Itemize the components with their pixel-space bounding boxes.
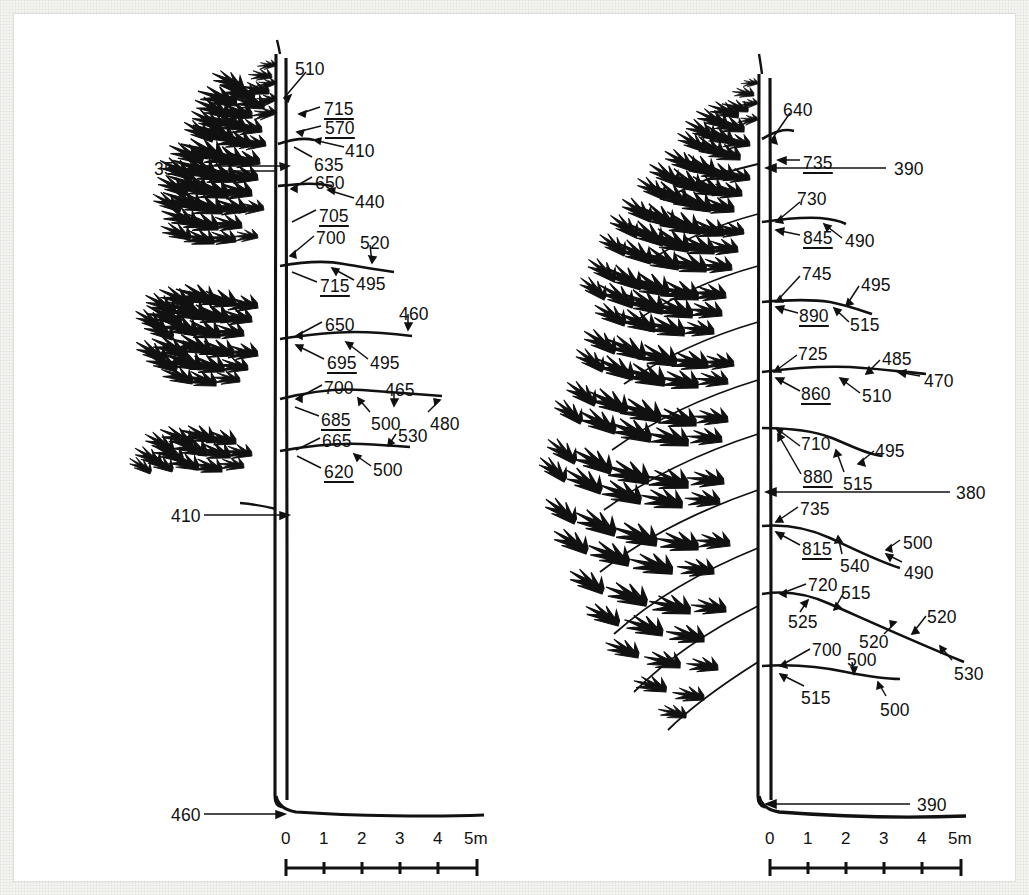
label-left-650a: 650: [315, 175, 345, 193]
label-right-845: 845: [803, 230, 833, 248]
label-right-540: 540: [840, 558, 870, 576]
right-scale-tick-1: 1: [803, 829, 812, 849]
left-scale-tick-2: 2: [357, 829, 366, 849]
label-right-720: 720: [808, 577, 838, 595]
label-left-715b: 715: [320, 278, 350, 296]
label-right-640: 640: [783, 102, 813, 120]
label-left-410b: 410: [171, 508, 201, 526]
label-right-520b: 520: [859, 634, 889, 652]
label-left-700b: 700: [324, 380, 354, 398]
right-scale-tick-4: 4: [917, 829, 926, 849]
label-left-460a: 460: [399, 306, 429, 324]
label-right-490a: 490: [845, 233, 875, 251]
label-right-380: 380: [956, 485, 986, 503]
left-scale-tick-1: 1: [319, 829, 328, 849]
label-right-880: 880: [803, 469, 833, 487]
left-scale-tick-3: 3: [395, 829, 404, 849]
right-scale-tick-2: 2: [841, 829, 850, 849]
label-left-530: 530: [398, 428, 428, 446]
figure-canvas: 510 715 570 410 635 350 650 440 705 700 …: [14, 14, 1015, 881]
label-right-390b: 390: [917, 797, 947, 815]
right-scale-end-label: 5m: [948, 829, 972, 849]
label-right-730: 730: [797, 191, 827, 209]
left-scale-tick-4: 4: [433, 829, 442, 849]
label-left-700a: 700: [316, 230, 346, 248]
label-right-510: 510: [862, 388, 892, 406]
tree-profiles-svg: [14, 14, 1015, 881]
label-right-745: 745: [802, 266, 832, 284]
label-left-495a: 495: [356, 276, 386, 294]
label-left-460b: 460: [171, 807, 201, 825]
label-left-410a: 410: [345, 143, 375, 161]
label-right-515d: 515: [801, 690, 831, 708]
label-left-500b: 500: [373, 462, 403, 480]
figure-vector-art: [14, 14, 1015, 881]
label-left-480: 480: [430, 416, 460, 434]
label-left-440: 440: [355, 194, 385, 212]
right-scale-tick-3: 3: [879, 829, 888, 849]
label-left-715a: 715: [324, 101, 354, 119]
label-left-510: 510: [295, 61, 325, 79]
label-right-860: 860: [801, 386, 831, 404]
label-left-465: 465: [385, 382, 415, 400]
right-scale-bar: [770, 859, 961, 876]
left-scale-end-label: 5m: [464, 829, 488, 849]
label-left-665: 665: [322, 433, 352, 451]
label-left-500a: 500: [371, 416, 401, 434]
label-right-700: 700: [812, 642, 842, 660]
label-right-515a: 515: [850, 317, 880, 335]
label-left-650b: 650: [325, 317, 355, 335]
label-left-570: 570: [325, 120, 355, 138]
label-right-470: 470: [924, 373, 954, 391]
label-right-490b: 490: [904, 565, 934, 583]
label-right-515b: 515: [843, 476, 873, 494]
label-right-515c: 515: [841, 585, 871, 603]
label-left-495b: 495: [370, 355, 400, 373]
label-left-620: 620: [324, 464, 354, 482]
left-scale-tick-0: 0: [281, 829, 290, 849]
label-left-635: 635: [314, 157, 344, 175]
label-left-520: 520: [360, 235, 390, 253]
label-right-500a: 500: [903, 535, 933, 553]
label-right-725: 725: [798, 346, 828, 364]
label-right-500c: 500: [880, 702, 910, 720]
label-right-520a: 520: [927, 609, 957, 627]
label-right-485: 485: [882, 351, 912, 369]
label-right-735a: 735: [803, 155, 833, 173]
right-scale-tick-0: 0: [765, 829, 774, 849]
label-right-710: 710: [801, 436, 831, 454]
label-right-525: 525: [788, 614, 818, 632]
label-right-495b: 495: [875, 443, 905, 461]
label-right-530: 530: [954, 666, 984, 684]
label-left-695: 695: [327, 355, 357, 373]
label-right-390a: 390: [894, 161, 924, 179]
label-right-890: 890: [799, 308, 829, 326]
label-left-350: 350: [154, 161, 184, 179]
label-left-685: 685: [321, 412, 351, 430]
label-left-705: 705: [319, 208, 349, 226]
figure-page: 510 715 570 410 635 350 650 440 705 700 …: [0, 0, 1029, 895]
label-right-495a: 495: [861, 277, 891, 295]
label-right-500b: 500: [847, 652, 877, 670]
label-right-815: 815: [802, 541, 832, 559]
label-right-735b: 735: [800, 501, 830, 519]
left-scale-bar: [286, 859, 477, 876]
